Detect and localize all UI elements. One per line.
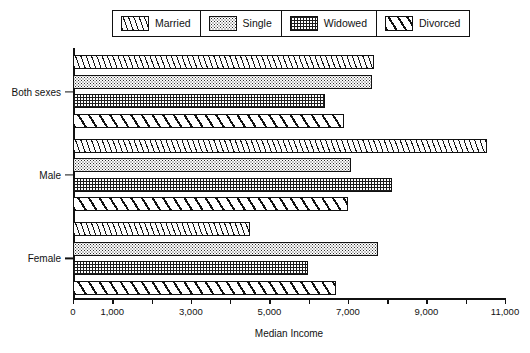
y-axis-label-both-sexes: Both sexes xyxy=(0,86,61,97)
x-tick-9000 xyxy=(426,298,427,304)
bar-female-divorced xyxy=(73,281,336,295)
x-minor-tick-10000 xyxy=(466,298,467,304)
legend-item-divorced: Divorced xyxy=(377,11,469,36)
legend-label-widowed: Widowed xyxy=(324,18,367,29)
bar-both-sexes-married xyxy=(73,55,374,69)
bar-male-widowed xyxy=(73,178,392,192)
legend-swatch-single xyxy=(209,16,237,31)
legend-item-married: Married xyxy=(113,11,201,36)
y-tick-female xyxy=(65,258,73,259)
x-tick-label-0: 0 xyxy=(70,306,75,317)
y-tick-both-sexes xyxy=(65,91,73,92)
bar-female-single xyxy=(73,242,378,256)
x-minor-tick-6000 xyxy=(309,298,310,304)
legend-label-married: Married xyxy=(155,18,191,29)
x-tick-7000 xyxy=(348,298,349,304)
x-tick-label-5000: 5,000 xyxy=(257,306,281,317)
y-axis-label-male: Male xyxy=(0,170,61,181)
bar-both-sexes-divorced xyxy=(73,114,344,128)
bar-female-widowed xyxy=(73,261,308,275)
x-tick-11000 xyxy=(505,298,506,304)
x-tick-3000 xyxy=(191,298,192,304)
x-tick-5000 xyxy=(269,298,270,304)
legend-item-widowed: Widowed xyxy=(282,11,377,36)
y-tick-male xyxy=(65,174,73,175)
bar-both-sexes-widowed xyxy=(73,94,325,108)
x-tick-label-9000: 9,000 xyxy=(415,306,439,317)
x-tick-0 xyxy=(73,298,74,304)
plot-area: Median Income Both sexesMaleFemale01,000… xyxy=(73,48,505,298)
x-tick-1000 xyxy=(112,298,113,304)
chart-legend: Married Single Widowed Divorced xyxy=(112,10,470,37)
x-tick-label-7000: 7,000 xyxy=(336,306,360,317)
x-minor-tick-8000 xyxy=(387,298,388,304)
legend-label-divorced: Divorced xyxy=(419,18,460,29)
x-tick-label-1000: 1,000 xyxy=(100,306,124,317)
y-axis-label-female: Female xyxy=(0,253,61,264)
bar-male-single xyxy=(73,158,351,172)
x-tick-label-3000: 3,000 xyxy=(179,306,203,317)
bar-both-sexes-single xyxy=(73,75,372,89)
x-tick-label-11000: 11,000 xyxy=(491,306,519,317)
legend-item-single: Single xyxy=(201,11,282,36)
chart-canvas: Married Single Widowed Divorced Median I… xyxy=(0,0,530,353)
legend-swatch-widowed xyxy=(290,16,318,31)
legend-label-single: Single xyxy=(243,18,272,29)
bar-female-married xyxy=(73,222,250,236)
legend-swatch-divorced xyxy=(385,16,413,31)
x-axis-line xyxy=(73,298,505,300)
bar-male-divorced xyxy=(73,197,348,211)
legend-swatch-married xyxy=(121,16,149,31)
x-axis-title: Median Income xyxy=(73,328,505,339)
x-minor-tick-4000 xyxy=(230,298,231,304)
x-minor-tick-2000 xyxy=(152,298,153,304)
bar-male-married xyxy=(73,139,487,153)
